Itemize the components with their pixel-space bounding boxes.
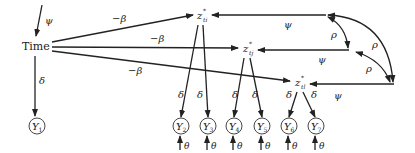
svg-text:z: z	[242, 43, 249, 54]
svg-text:ti: ti	[203, 16, 207, 23]
disturbance-label-ztl: ψ	[334, 90, 342, 101]
time-disturbance-arrow	[36, 5, 42, 36]
time-disturbance-label: ψ	[45, 15, 53, 26]
error-label: θ	[184, 141, 190, 151]
svg-text:*: *	[301, 74, 304, 81]
edge-time-ztl-label: −β	[128, 65, 142, 76]
edge-time-zti-label: −β	[112, 13, 126, 24]
edge-zti-y2-label: δ	[178, 89, 184, 100]
svg-text:z: z	[294, 77, 301, 88]
edge-time-ztj-label: −β	[150, 33, 164, 44]
observed-node-subscript: 6	[291, 126, 295, 133]
observed-node-y4: Y4θ	[226, 118, 243, 151]
observed-node-subscript: 2	[183, 126, 187, 133]
observed-node-y6: Y6θ	[281, 118, 298, 151]
edge-ztj-y5-label: δ	[252, 89, 258, 100]
edge-zti-y3-label: δ	[197, 89, 203, 100]
correlation-label-zti-ztj: ρ	[330, 29, 337, 40]
observed-node-subscript: 1	[39, 126, 43, 133]
disturbance-label-zti: ψ	[284, 19, 292, 30]
disturbance-label-ztj: ψ	[318, 54, 326, 65]
edge-ztj-y4	[234, 58, 244, 117]
observed-node-subscript: 5	[264, 126, 268, 133]
svg-text:tl: tl	[301, 83, 305, 90]
observed-node-y2: Y2θ	[173, 118, 190, 151]
correlation-ztj-ztl	[356, 52, 390, 82]
correlation-label-zti-ztl: ρ	[371, 39, 378, 50]
observed-node-subscript: 4	[236, 126, 240, 133]
observed-node-y1: Y1	[29, 118, 45, 134]
edge-time-ztj	[52, 47, 238, 48]
edge-ztj-y5	[250, 58, 262, 117]
observed-node-subscript: 3	[210, 126, 214, 133]
svg-text:z: z	[196, 10, 203, 21]
error-label: θ	[292, 141, 298, 151]
time-node-label: Time	[22, 40, 50, 53]
correlation-zti-ztl	[328, 15, 393, 82]
edge-zti-y2	[181, 25, 198, 117]
edge-ztj-y4-label: δ	[232, 89, 238, 100]
edge-ztl-y6-label: δ	[286, 89, 292, 100]
edge-time-y1-label: δ	[39, 75, 45, 86]
observed-node-y7: Y7θ	[308, 118, 325, 151]
svg-text:*: *	[249, 40, 252, 47]
observed-node-y3: Y3θ	[200, 118, 217, 151]
svg-text:*: *	[203, 7, 206, 14]
svg-text:tj: tj	[249, 49, 253, 57]
error-label: θ	[265, 141, 271, 151]
path-diagram: Time ψ δ −β −β −β z * ti z * tj z * tl ψ…	[0, 0, 415, 153]
latent-node-ztj: z * tj	[242, 40, 253, 57]
observed-node-y5: Y5θ	[254, 118, 271, 151]
latent-node-zti: z * ti	[196, 7, 207, 23]
observed-node-subscript: 7	[318, 126, 322, 133]
edge-ztl-y7-label: δ	[311, 89, 317, 100]
error-label: θ	[319, 141, 325, 151]
error-label: θ	[211, 141, 217, 151]
latent-node-ztl: z * tl	[294, 74, 305, 90]
error-label: θ	[237, 141, 243, 151]
correlation-label-ztj-ztl: ρ	[365, 63, 372, 74]
